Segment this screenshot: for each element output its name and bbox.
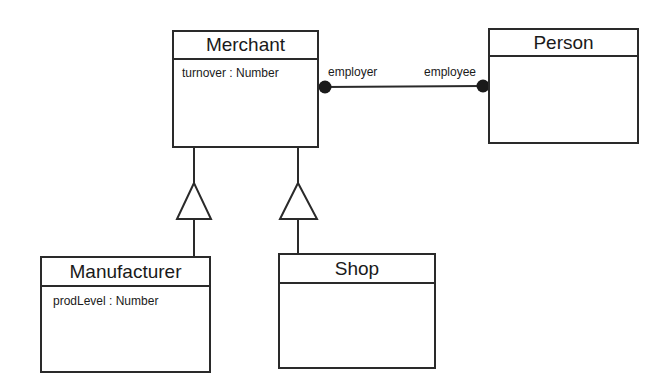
attribute-prodlevel: prodLevel : Number (53, 294, 209, 308)
association-line (325, 86, 483, 87)
uml-diagram-canvas: Merchant turnover : Number Person Manufa… (0, 0, 668, 392)
class-attributes-shop (280, 284, 434, 290)
role-label-employee: employee (424, 65, 476, 79)
class-attributes-manufacturer: prodLevel : Number (42, 287, 209, 308)
association-end-dot-employer (319, 81, 332, 94)
role-label-employer: employer (328, 65, 377, 79)
generalization-triangle-icon (177, 183, 211, 219)
class-name-merchant: Merchant (174, 32, 317, 60)
attribute-turnover: turnover : Number (182, 66, 317, 80)
class-manufacturer[interactable]: Manufacturer prodLevel : Number (40, 256, 211, 373)
class-name-shop: Shop (280, 255, 434, 284)
class-name-person: Person (490, 30, 637, 57)
class-merchant[interactable]: Merchant turnover : Number (172, 30, 319, 148)
class-person[interactable]: Person (488, 28, 639, 144)
class-attributes-merchant: turnover : Number (174, 60, 317, 80)
generalization-manufacturer (177, 147, 211, 256)
class-shop[interactable]: Shop (278, 253, 436, 369)
class-name-manufacturer: Manufacturer (42, 258, 209, 287)
class-attributes-person (490, 57, 637, 63)
generalization-shop (280, 147, 317, 253)
generalization-triangle-icon (280, 183, 317, 219)
